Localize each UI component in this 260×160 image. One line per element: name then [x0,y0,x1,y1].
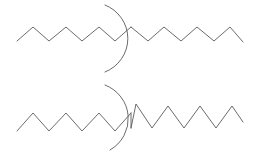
figure-canvas [0,0,260,160]
canvas-background [0,0,260,160]
